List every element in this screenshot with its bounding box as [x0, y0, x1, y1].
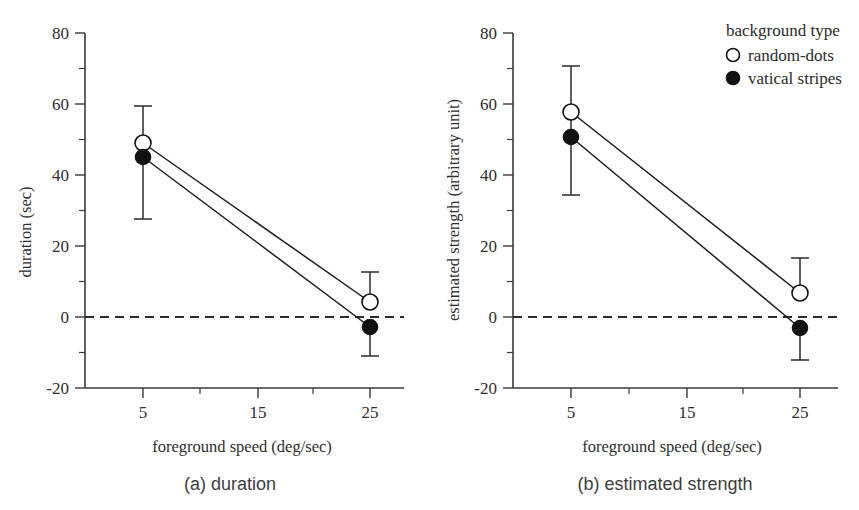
panel-a-marker-random-dots-x25	[362, 294, 378, 310]
panel-a-x-ticks	[143, 388, 370, 398]
open-circle-icon	[727, 49, 740, 62]
legend-entry-vatical-stripes: vatical stripes	[727, 69, 842, 88]
panel-b-y-ticks	[503, 33, 513, 388]
panel-b-xtick-15: 15	[679, 403, 696, 422]
panel-a-xtick-25: 25	[362, 403, 379, 422]
panel-b-marker-random-dots-x5	[563, 104, 579, 120]
legend-label-vatical-stripes: vatical stripes	[748, 69, 842, 88]
panel-a-ytick-neg20: -20	[46, 379, 69, 398]
panel-a-marker-random-dots-x5	[135, 135, 151, 151]
panel-a-ytick-60: 60	[52, 95, 69, 114]
panel-b-xlabel: foreground speed (deg/sec)	[582, 437, 762, 456]
panel-b-caption: (b) estimated strength	[577, 474, 752, 494]
two-panel-line-chart: 80 60 40 20 0 -20 5 15 25	[0, 0, 859, 510]
panel-a-caption: (a) duration	[184, 474, 276, 494]
panel-a-ytick-0: 0	[61, 308, 70, 327]
panel-b-ytick-40: 40	[480, 166, 497, 185]
legend-entry-random-dots: random-dots	[727, 46, 834, 65]
panel-a-xtick-15: 15	[250, 403, 267, 422]
legend-label-random-dots: random-dots	[748, 46, 834, 65]
panel-a-y-ticks	[75, 33, 85, 388]
panel-b-line-random-dots	[571, 112, 800, 293]
panel-b-marker-vatical-stripes-x25	[793, 321, 808, 336]
panel-b-ytick-neg20: -20	[474, 379, 497, 398]
panel-b-marker-random-dots-x25	[792, 285, 808, 301]
panel-b-xtick-5: 5	[567, 403, 576, 422]
panel-a-marker-vatical-stripes-x5	[136, 150, 151, 165]
panel-a-xtick-5: 5	[139, 403, 148, 422]
panel-b-marker-vatical-stripes-x5	[564, 130, 579, 145]
panel-a-line-random-dots	[143, 143, 370, 302]
panel-b-ytick-80: 80	[480, 24, 497, 43]
figure-container: 80 60 40 20 0 -20 5 15 25	[0, 0, 859, 510]
legend: background type random-dots vatical stri…	[726, 21, 842, 88]
panel-b-ytick-20: 20	[480, 237, 497, 256]
panel-a-ylabel: duration (sec)	[16, 186, 35, 277]
filled-circle-icon	[727, 72, 740, 85]
panel-a-ytick-20: 20	[52, 237, 69, 256]
panel-a: 80 60 40 20 0 -20 5 15 25	[16, 24, 404, 494]
panel-b-x-ticks	[571, 388, 800, 398]
panel-b: 80 60 40 20 0 -20 5 15 25	[444, 24, 838, 494]
panel-a-xlabel: foreground speed (deg/sec)	[152, 437, 332, 456]
panel-a-line-vatical-stripes	[143, 157, 370, 327]
panel-b-line-vatical-stripes	[571, 137, 800, 328]
panel-a-ytick-40: 40	[52, 166, 69, 185]
panel-a-marker-vatical-stripes-x25	[363, 320, 378, 335]
panel-b-xtick-25: 25	[792, 403, 809, 422]
panel-b-ytick-0: 0	[489, 308, 498, 327]
legend-title: background type	[726, 21, 840, 40]
panel-b-ylabel: estimated strength (arbitrary unit)	[444, 99, 463, 321]
panel-b-ytick-60: 60	[480, 95, 497, 114]
panel-a-ytick-80: 80	[52, 24, 69, 43]
